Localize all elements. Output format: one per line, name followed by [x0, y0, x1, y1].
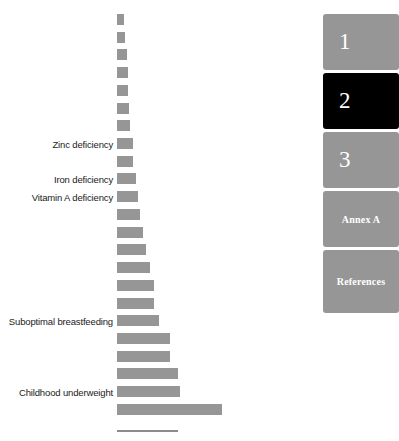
bar-track	[117, 315, 159, 326]
bar-fill	[117, 244, 146, 255]
bar-fill	[117, 280, 154, 291]
bar-track	[117, 209, 140, 220]
bar-row	[0, 351, 320, 362]
bar-row	[0, 244, 320, 255]
bar-fill	[117, 368, 178, 379]
tab-button-label: References	[337, 276, 385, 287]
bar-row: Zinc deficiency	[0, 138, 320, 149]
tab-button-references[interactable]: References	[323, 250, 399, 313]
bar-fill	[117, 120, 130, 131]
bar-fill	[117, 49, 127, 60]
section-tab-rail: 123Annex AReferences	[323, 0, 399, 441]
tab-button-annex-a[interactable]: Annex A	[323, 191, 399, 247]
bar-fill	[117, 32, 125, 43]
bar-fill	[117, 315, 159, 326]
tab-button-3[interactable]: 3	[323, 132, 399, 188]
bar-fill	[117, 67, 128, 78]
bar-track	[117, 244, 146, 255]
axis-baseline-rule	[117, 430, 178, 432]
tab-button-label: 2	[339, 88, 351, 114]
bar-row	[0, 156, 320, 167]
bar-track	[117, 404, 222, 415]
tab-button-label: 1	[339, 29, 351, 55]
bar-row	[0, 120, 320, 131]
bar-row	[0, 103, 320, 114]
bar-track	[117, 49, 127, 60]
bar-track	[117, 32, 125, 43]
bar-row	[0, 85, 320, 96]
bar-fill	[117, 14, 124, 25]
bar-row	[0, 333, 320, 344]
bar-track	[117, 280, 154, 291]
bar-fill	[117, 156, 133, 167]
bar-row	[0, 209, 320, 220]
tab-button-1[interactable]: 1	[323, 14, 399, 70]
bar-category-label: Suboptimal breastfeeding	[9, 315, 113, 326]
bar-track	[117, 191, 138, 202]
bar-row: Iron deficiency	[0, 173, 320, 184]
bar-track	[117, 173, 136, 184]
bar-fill	[117, 298, 154, 309]
tab-button-label: 3	[339, 147, 351, 173]
bar-track	[117, 67, 128, 78]
bar-fill	[117, 138, 133, 149]
bar-row	[0, 298, 320, 309]
bar-track	[117, 227, 143, 238]
bar-category-label: Iron deficiency	[54, 173, 113, 184]
bar-row: Childhood underweight	[0, 386, 320, 397]
bar-track	[117, 156, 133, 167]
bar-row	[0, 280, 320, 291]
tab-button-2[interactable]: 2	[323, 73, 399, 129]
bar-track	[117, 333, 170, 344]
bar-row	[0, 67, 320, 78]
bar-category-label: Zinc deficiency	[52, 138, 113, 149]
bar-row	[0, 368, 320, 379]
bar-row	[0, 227, 320, 238]
bar-fill	[117, 386, 180, 397]
bar-fill	[117, 85, 128, 96]
bar-track	[117, 85, 128, 96]
bar-track	[117, 262, 150, 273]
bar-fill	[117, 262, 150, 273]
bar-fill	[117, 351, 170, 362]
bar-fill	[117, 173, 136, 184]
bar-row	[0, 49, 320, 60]
bar-row: Suboptimal breastfeeding	[0, 315, 320, 326]
bar-track	[117, 298, 154, 309]
bar-track	[117, 14, 124, 25]
tab-button-label: Annex A	[342, 214, 380, 225]
bar-track	[117, 386, 180, 397]
bar-track	[117, 368, 178, 379]
bar-track	[117, 351, 170, 362]
bar-fill	[117, 191, 138, 202]
bar-chart: Zinc deficiencyIron deficiencyVitamin A …	[0, 0, 320, 441]
bar-row	[0, 404, 320, 415]
bar-fill	[117, 333, 170, 344]
bar-fill	[117, 103, 129, 114]
bar-fill	[117, 404, 222, 415]
bar-fill	[117, 227, 143, 238]
bar-category-label: Vitamin A deficiency	[32, 191, 113, 202]
bar-track	[117, 138, 133, 149]
bar-fill	[117, 209, 140, 220]
bar-row: Vitamin A deficiency	[0, 191, 320, 202]
bar-row	[0, 14, 320, 25]
bar-track	[117, 120, 130, 131]
bar-row	[0, 32, 320, 43]
bar-row	[0, 262, 320, 273]
bar-category-label: Childhood underweight	[19, 386, 113, 397]
bar-track	[117, 103, 129, 114]
